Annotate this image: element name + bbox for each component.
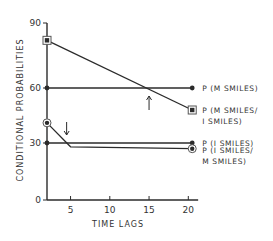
y-tick-label: 60 xyxy=(30,83,42,93)
x-tick-label: 20 xyxy=(183,205,195,215)
annotations xyxy=(64,96,151,135)
y-tick-label: 30 xyxy=(30,138,42,148)
x-tick-label: 5 xyxy=(68,205,74,215)
series-label: P (M SMILES/ xyxy=(202,106,258,115)
series-labels: P (M SMILES)P (M SMILES/I SMILES)P (I SM… xyxy=(202,84,258,166)
series-lines xyxy=(43,36,196,152)
y-axis-title: CONDITIONAL PROBABILITIES xyxy=(16,38,25,181)
square-marker-core xyxy=(190,108,194,112)
circle-marker-core xyxy=(45,121,49,125)
dot-marker-icon xyxy=(190,86,195,91)
series-label: P (I SMILES/ xyxy=(202,146,253,155)
series-label: P (M SMILES) xyxy=(202,84,258,93)
square-marker-core xyxy=(45,38,49,42)
chart: 03060905101520TIME LAGSCONDITIONAL PROBA… xyxy=(0,0,273,241)
y-tick-label: 0 xyxy=(35,195,41,205)
y-tick-label: 90 xyxy=(30,18,42,28)
dot-marker-icon xyxy=(45,141,50,146)
series-label: I SMILES) xyxy=(202,117,242,126)
dot-marker-icon xyxy=(45,86,50,91)
x-tick-label: 15 xyxy=(143,205,154,215)
circle-marker-core xyxy=(190,147,194,151)
x-tick-label: 10 xyxy=(104,205,116,215)
series-line xyxy=(47,123,192,149)
series-line xyxy=(47,40,192,110)
x-axis-title: TIME LAGS xyxy=(91,220,144,229)
series-label: M SMILES) xyxy=(202,157,246,166)
